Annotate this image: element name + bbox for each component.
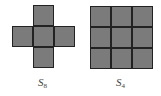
square-cell	[111, 27, 132, 48]
label-s4: S4	[116, 77, 125, 90]
cross-cell-right	[54, 26, 75, 47]
label-s8-sub: 8	[44, 82, 48, 90]
square-cell	[90, 27, 111, 48]
square-cell	[132, 27, 153, 48]
label-s8: S8	[38, 77, 47, 90]
cross-shape-s8	[12, 5, 76, 69]
square-cell	[111, 48, 132, 69]
square-cell	[132, 48, 153, 69]
cross-cell-top	[33, 5, 54, 26]
square-cell	[132, 6, 153, 27]
square-shape-s4	[90, 6, 154, 70]
square-cell	[111, 6, 132, 27]
square-cell	[90, 6, 111, 27]
cross-cell-bottom	[33, 47, 54, 68]
cross-cell-left	[12, 26, 33, 47]
square-cell	[90, 48, 111, 69]
label-s4-sub: 4	[122, 82, 126, 90]
cross-cell-center	[33, 26, 54, 47]
